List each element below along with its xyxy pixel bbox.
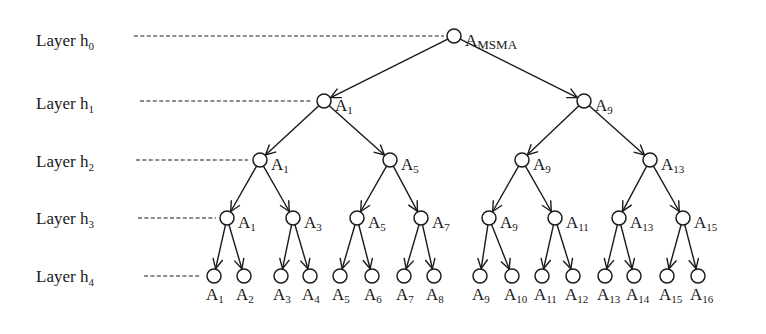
layer-label-h4: Layer h4 (36, 267, 94, 288)
layer-label-h0: Layer h0 (36, 31, 94, 52)
node-label-a11: A11 (534, 285, 557, 305)
arrow-edge (481, 225, 488, 269)
arrow-edge (493, 166, 519, 211)
node-label-a13: A13 (597, 285, 621, 305)
tree-node-circle (274, 269, 288, 283)
layer-label-h2: Layer h2 (36, 152, 94, 173)
tree-node-circle (612, 211, 626, 225)
node-label-a8: A8 (426, 285, 444, 305)
arrow-edge (669, 225, 681, 269)
node-label-a4: A4 (302, 285, 320, 305)
tree-node-circle (566, 269, 580, 283)
node-label-a5: A5 (332, 285, 350, 305)
arrow-edge (361, 166, 387, 211)
node-label-a12: A12 (565, 285, 588, 305)
layer-labels: Layer h0Layer h1Layer h2Layer h3Layer h4 (36, 31, 94, 288)
node-label-a1: A1 (238, 213, 256, 233)
node-label-a2: A2 (236, 285, 254, 305)
tree-node-circle (482, 211, 496, 225)
node-label-a7: A7 (432, 213, 450, 233)
arrow-edge (283, 225, 292, 269)
tree-node-circle (427, 269, 441, 283)
tree-node-circle (414, 211, 428, 225)
arrow-edge (216, 225, 226, 269)
node-label-a1: A1 (206, 285, 224, 305)
tree-node-circle (598, 269, 612, 283)
node-label-a10: A10 (504, 285, 528, 305)
arrow-edge (406, 225, 419, 269)
node-label-a3: A3 (273, 285, 291, 305)
tree-node-circle (207, 269, 221, 283)
arrow-edge (266, 106, 319, 155)
tree-node-circle (383, 153, 397, 167)
tree-node-circle (676, 211, 690, 225)
node-label-amsma: AMSMA (465, 31, 518, 52)
msma-tree-diagram: Layer h0Layer h1Layer h2Layer h3Layer h4… (0, 0, 766, 334)
node-label-a13: A13 (630, 213, 654, 233)
node-label-a9: A9 (472, 285, 490, 305)
tree-node-circle (237, 269, 251, 283)
tree-node-circle (643, 153, 657, 167)
layer-label-h1: Layer h1 (36, 94, 94, 115)
node-label-a5: A5 (368, 213, 386, 233)
node-label-a15: A15 (694, 213, 718, 233)
arrow-edge (342, 225, 355, 269)
node-label-a15: A15 (659, 285, 683, 305)
tree-node-circle (577, 94, 591, 108)
node-label-a13: A13 (661, 155, 685, 175)
tree-node-circle (660, 269, 674, 283)
tree-node-circle (303, 269, 317, 283)
tree-node-circle (548, 211, 562, 225)
arrow-edge (331, 39, 448, 98)
node-label-a5: A5 (401, 155, 419, 175)
node-labels: AMSMAA1A9A1A5A9A13A1A3A5A7A9A11A13A15A1A… (206, 31, 718, 305)
node-label-a9: A9 (533, 155, 551, 175)
arrow-edge (623, 166, 647, 211)
tree-node-circle (220, 211, 234, 225)
tree-node-circle (397, 269, 411, 283)
arrow-edge (544, 225, 554, 269)
tree-edges (216, 39, 696, 269)
tree-node-circle (253, 153, 267, 167)
tree-node-circle (286, 211, 300, 225)
arrow-edge (527, 106, 578, 155)
node-label-a9: A9 (500, 213, 518, 233)
arrow-edge (423, 225, 433, 269)
node-label-a1: A1 (335, 96, 353, 116)
tree-node-circle (691, 269, 705, 283)
tree-node-circle (365, 269, 379, 283)
layer-label-h3: Layer h3 (36, 209, 94, 230)
node-label-a14: A14 (626, 285, 650, 305)
tree-node-circle (627, 269, 641, 283)
node-label-a7: A7 (396, 285, 414, 305)
node-label-a16: A16 (690, 285, 714, 305)
node-label-a6: A6 (364, 285, 382, 305)
tree-node-circle (473, 269, 487, 283)
tree-node-circle (535, 269, 549, 283)
node-label-a9: A9 (595, 96, 613, 116)
node-label-a11: A11 (566, 213, 589, 233)
arrow-edge (607, 225, 618, 269)
tree-node-circle (515, 153, 529, 167)
node-label-a3: A3 (304, 213, 322, 233)
tree-node-circle (317, 94, 331, 108)
tree-node-circle (505, 269, 519, 283)
tree-node-circle (333, 269, 347, 283)
node-label-a1: A1 (271, 155, 289, 175)
tree-node-circle (447, 29, 461, 43)
tree-node-circle (350, 211, 364, 225)
arrow-edge (231, 166, 257, 211)
